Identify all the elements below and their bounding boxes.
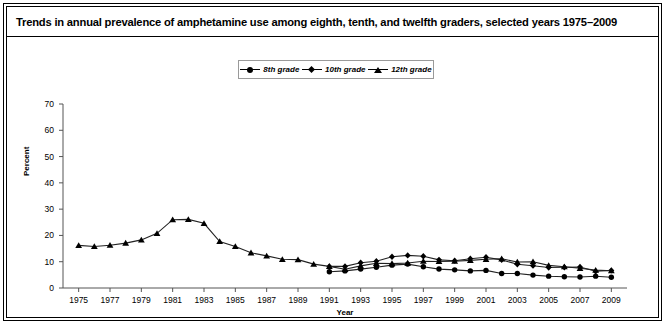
data-point-marker <box>546 273 551 278</box>
data-point-marker <box>515 271 520 276</box>
x-axis-tick-label: 2009 <box>591 295 631 305</box>
chart-plot-area: Percent 010203040506070 1975197719791981… <box>0 0 669 328</box>
data-point-marker <box>248 250 255 256</box>
y-axis-tick-label: 0 <box>32 283 54 293</box>
data-point-marker <box>530 272 535 277</box>
data-point-marker <box>436 266 441 271</box>
data-point-marker <box>389 254 395 260</box>
data-point-marker <box>327 269 332 274</box>
data-point-marker <box>609 275 614 280</box>
data-point-marker <box>577 274 582 279</box>
y-axis-tick-label: 70 <box>32 99 54 109</box>
y-axis-tick-label: 40 <box>32 178 54 188</box>
y-axis-tick-label: 50 <box>32 152 54 162</box>
y-axis-tick-label: 30 <box>32 204 54 214</box>
data-point-marker <box>483 268 488 273</box>
data-point-marker <box>452 267 457 272</box>
y-axis-tick-label: 10 <box>32 257 54 267</box>
y-axis-tick-label: 20 <box>32 230 54 240</box>
data-point-marker <box>562 274 567 279</box>
data-point-marker <box>499 271 504 276</box>
x-axis-label: Year <box>325 308 365 317</box>
chart-canvas <box>0 0 669 328</box>
data-point-marker <box>138 237 145 243</box>
data-point-marker <box>421 264 426 269</box>
data-point-marker <box>468 268 473 273</box>
y-axis-tick-label: 60 <box>32 125 54 135</box>
data-point-marker <box>405 252 411 258</box>
